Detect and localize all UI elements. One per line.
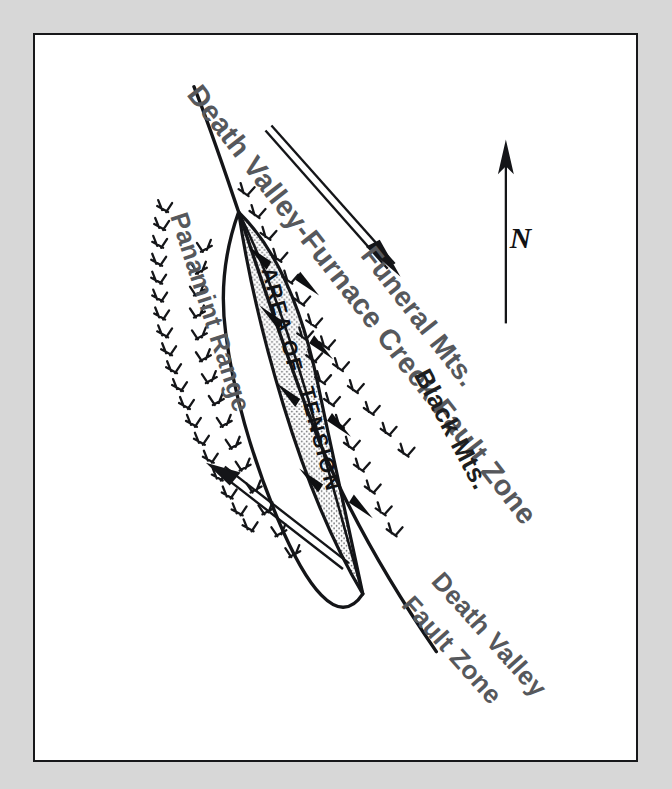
figure-root: N Death Valley-Furnace Creek Fault Zone …	[0, 0, 672, 789]
map-frame: N Death Valley-Furnace Creek Fault Zone …	[33, 33, 638, 762]
geologic-map-canvas: N Death Valley-Furnace Creek Fault Zone …	[35, 35, 636, 760]
tension-arrow-east-1	[295, 272, 319, 296]
north-arrow: N	[498, 139, 533, 323]
north-arrow-letter: N	[509, 221, 533, 254]
